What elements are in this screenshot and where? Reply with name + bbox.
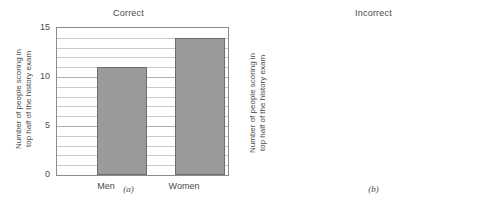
y-axis-label-correct: Number of people scoring in top half of … — [14, 28, 34, 170]
chart-panel-correct: Correct Number of people scoring in top … — [0, 0, 243, 208]
bar-men-correct — [97, 67, 147, 175]
plot-area-correct — [56, 27, 229, 176]
chart-panel-incorrect: Incorrect Number of people scoring in to… — [243, 0, 486, 208]
panel-caption-b: (b) — [243, 184, 486, 194]
y-axis-label-incorrect: Number of people scoring in top half of … — [248, 38, 268, 168]
chart-title-incorrect: Incorrect — [243, 8, 486, 18]
ytick-label-5: 5 — [28, 120, 50, 130]
ytick-label-0: 0 — [28, 169, 50, 179]
ytick-label-15: 15 — [28, 22, 50, 32]
bar-women-correct — [175, 38, 225, 175]
chart-title-correct: Correct — [0, 8, 243, 18]
ytick-label-10: 10 — [28, 71, 50, 81]
panel-caption-a: (a) — [0, 184, 243, 194]
